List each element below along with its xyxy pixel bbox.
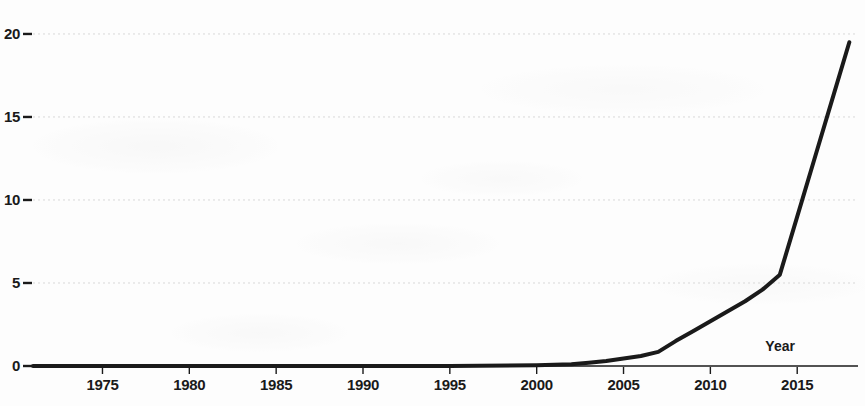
y-tick-label-20: 20 (4, 25, 20, 42)
x-tick-label-1990: 1990 (333, 376, 393, 393)
x-tick-label-1985: 1985 (246, 376, 306, 393)
series-line-0 (33, 42, 849, 366)
gridlines (33, 34, 858, 283)
y-axis-tick-marks (23, 34, 32, 366)
x-axis-title: Year (765, 338, 795, 354)
x-axis-tick-marks (102, 367, 797, 374)
y-tick-label-10: 10 (4, 191, 20, 208)
x-tick-label-1995: 1995 (420, 376, 480, 393)
y-tick-label-5: 5 (12, 274, 20, 291)
data-series (33, 42, 849, 366)
line-chart: 05101520 1975198019851990199520002005201… (0, 0, 865, 406)
y-tick-label-15: 15 (4, 108, 20, 125)
x-tick-label-2000: 2000 (507, 376, 567, 393)
y-tick-label-0: 0 (12, 357, 20, 374)
x-tick-label-2015: 2015 (767, 376, 827, 393)
plot-canvas (0, 0, 865, 406)
x-tick-label-1980: 1980 (159, 376, 219, 393)
x-tick-label-1975: 1975 (72, 376, 132, 393)
x-tick-label-2010: 2010 (680, 376, 740, 393)
x-tick-label-2005: 2005 (594, 376, 654, 393)
